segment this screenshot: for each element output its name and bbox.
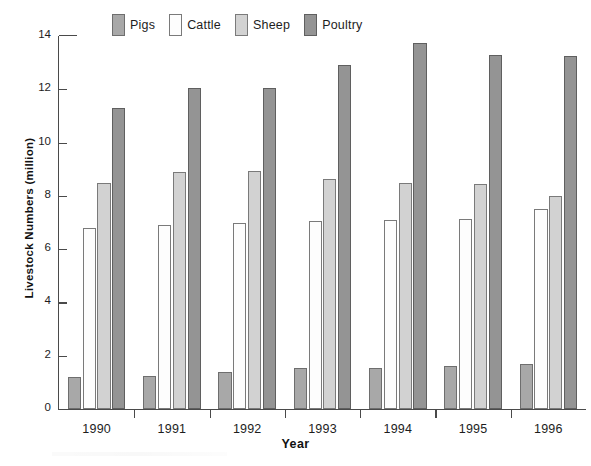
bar-pigs-1990 bbox=[68, 377, 81, 409]
legend-label-cattle: Cattle bbox=[187, 18, 221, 32]
bar-cattle-1992 bbox=[233, 223, 246, 410]
scan-artifact bbox=[52, 452, 227, 456]
y-tick-mark bbox=[59, 249, 67, 250]
bar-cattle-1996 bbox=[534, 209, 547, 409]
legend-item-sheep: Sheep bbox=[235, 14, 290, 36]
bar-pigs-1992 bbox=[218, 372, 231, 409]
cattle-swatch-icon bbox=[169, 14, 182, 36]
y-tick-mark bbox=[59, 356, 67, 357]
legend-item-cattle: Cattle bbox=[169, 14, 221, 36]
y-tick-mark bbox=[59, 302, 67, 303]
bar-poultry-1993 bbox=[338, 65, 351, 409]
y-axis-title: Livestock Numbers (million) bbox=[23, 103, 35, 333]
bar-cattle-1990 bbox=[83, 228, 96, 409]
y-tick-mark bbox=[59, 196, 67, 197]
bar-poultry-1990 bbox=[112, 108, 125, 409]
x-axis-title: Year bbox=[0, 437, 591, 451]
legend-label-sheep: Sheep bbox=[253, 18, 290, 32]
axis-top-stub bbox=[59, 35, 77, 36]
x-tick-label-1993: 1993 bbox=[308, 422, 337, 436]
x-tick-label-1996: 1996 bbox=[534, 422, 563, 436]
x-tick-label-1992: 1992 bbox=[233, 422, 262, 436]
sheep-swatch-icon bbox=[235, 14, 248, 36]
bar-sheep-1995 bbox=[474, 184, 487, 409]
bar-sheep-1994 bbox=[399, 183, 412, 409]
bar-sheep-1990 bbox=[97, 183, 110, 409]
bar-sheep-1993 bbox=[323, 179, 336, 409]
x-tick-label-1991: 1991 bbox=[158, 422, 187, 436]
pigs-swatch-icon bbox=[112, 14, 125, 36]
legend-item-poultry: Poultry bbox=[304, 14, 362, 36]
bar-pigs-1994 bbox=[369, 368, 382, 409]
chart-legend: Pigs Cattle Sheep Poultry bbox=[112, 13, 362, 37]
bar-poultry-1996 bbox=[564, 56, 577, 409]
x-tick-mark bbox=[511, 409, 512, 418]
y-tick-label: 14 bbox=[38, 28, 51, 40]
bar-cattle-1995 bbox=[459, 219, 472, 409]
y-tick-label: 6 bbox=[45, 241, 51, 253]
bar-poultry-1995 bbox=[489, 55, 502, 409]
bar-poultry-1992 bbox=[263, 88, 276, 409]
x-tick-mark bbox=[360, 409, 361, 418]
y-tick-label: 12 bbox=[38, 81, 51, 93]
bar-pigs-1993 bbox=[294, 368, 307, 409]
bar-poultry-1991 bbox=[188, 88, 201, 409]
x-tick-mark bbox=[285, 409, 286, 418]
bar-poultry-1994 bbox=[413, 43, 426, 409]
bar-cattle-1994 bbox=[384, 220, 397, 409]
x-tick-mark bbox=[435, 409, 436, 418]
bar-pigs-1995 bbox=[444, 366, 457, 409]
y-tick-mark bbox=[59, 89, 67, 90]
bar-sheep-1992 bbox=[248, 171, 261, 409]
livestock-bar-chart: Pigs Cattle Sheep Poultry Livestock Numb… bbox=[0, 0, 591, 466]
bar-pigs-1996 bbox=[520, 364, 533, 409]
y-tick-label: 0 bbox=[45, 401, 51, 413]
x-tick-label-1994: 1994 bbox=[383, 422, 412, 436]
x-tick-mark bbox=[134, 409, 135, 418]
x-tick-label-1995: 1995 bbox=[459, 422, 488, 436]
y-tick-mark bbox=[59, 143, 67, 144]
poultry-swatch-icon bbox=[304, 14, 317, 36]
y-tick-label: 10 bbox=[38, 135, 51, 147]
plot-area: 02468101214 1990199119921993199419951996 bbox=[58, 36, 586, 410]
bar-sheep-1991 bbox=[173, 172, 186, 409]
legend-item-pigs: Pigs bbox=[112, 14, 155, 36]
legend-label-poultry: Poultry bbox=[322, 18, 362, 32]
x-tick-mark bbox=[210, 409, 211, 418]
y-tick-label: 4 bbox=[45, 294, 51, 306]
bar-pigs-1991 bbox=[143, 376, 156, 409]
y-tick-label: 2 bbox=[45, 348, 51, 360]
x-tick-label-1990: 1990 bbox=[82, 422, 111, 436]
bar-cattle-1991 bbox=[158, 225, 171, 409]
bar-cattle-1993 bbox=[309, 221, 322, 409]
legend-label-pigs: Pigs bbox=[130, 18, 155, 32]
y-tick-label: 8 bbox=[45, 188, 51, 200]
bar-sheep-1996 bbox=[549, 196, 562, 409]
